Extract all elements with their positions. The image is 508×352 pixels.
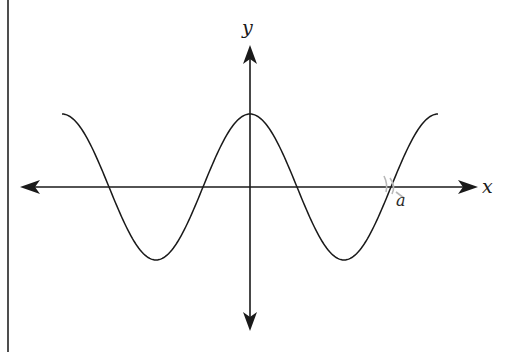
y-axis — [243, 45, 257, 331]
point-a-label: a — [396, 191, 406, 210]
cosine-graph: y x a — [0, 0, 508, 352]
x-axis-label: x — [482, 175, 493, 197]
x-axis — [20, 180, 478, 194]
y-axis-label: y — [241, 16, 253, 38]
